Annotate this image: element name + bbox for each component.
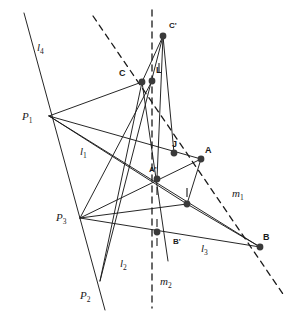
line-l4 [24, 13, 105, 310]
line-P2-C [100, 82, 142, 281]
line-P1-C [49, 82, 142, 116]
line-P3-I [80, 204, 187, 218]
point-label-j: J [172, 140, 177, 149]
point-label-l: L [156, 66, 162, 75]
label-m2: m2 [160, 276, 172, 290]
solid-lines-group [24, 13, 260, 310]
point-dot-cprime [160, 33, 167, 40]
point-label-aprime: A' [149, 166, 157, 174]
point-label-b: B [263, 233, 270, 242]
point-dot-bprime [154, 229, 161, 236]
point-dot-aprime [154, 176, 161, 183]
point-dot-c [139, 79, 146, 86]
label-l2: l2 [120, 258, 127, 272]
label-l4: l4 [37, 42, 44, 56]
point-dot-a [198, 156, 205, 163]
point-dot-i [184, 201, 191, 208]
point-label-c: C [119, 69, 126, 78]
point-label-cprime: C' [169, 22, 177, 30]
figure-canvas [0, 0, 302, 319]
point-label-p1: P1 [22, 111, 32, 125]
point-label-p2: P2 [80, 290, 90, 304]
point-dot-l [149, 78, 156, 85]
line-P1-J [49, 116, 201, 159]
line-Cprime-J [163, 36, 174, 153]
line-m1 [93, 16, 285, 297]
point-label-p3: P3 [56, 212, 66, 226]
point-label-bprime: B' [173, 238, 181, 246]
line-A-I [187, 159, 201, 204]
geometry-figure: P1P2P3CLC'JAA'B'Bl4l1l2l3m1m2 [0, 0, 302, 319]
line-P3-Aprime [80, 159, 201, 218]
line-P3-C [80, 81, 152, 218]
label-m1: m1 [232, 188, 244, 202]
line-P3-B [80, 218, 260, 247]
point-label-a: A [205, 146, 212, 155]
label-l3: l3 [201, 243, 208, 257]
point-dot-j [171, 150, 178, 157]
point-dot-b [257, 244, 264, 251]
line-I-B [187, 204, 260, 247]
label-l1: l1 [80, 146, 87, 160]
